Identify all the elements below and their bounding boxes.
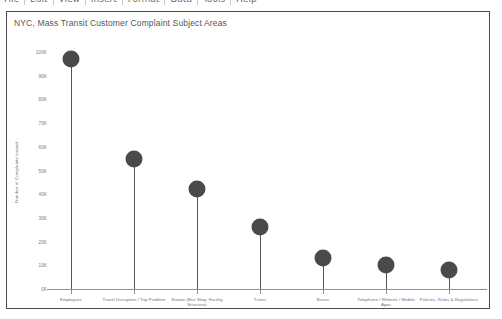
data-point-marker[interactable] [378,257,395,274]
chart-panel: NYC, Mass Transit Customer Complaint Sub… [6,11,490,309]
y-axis-tick-label: 90K [39,73,47,78]
lollipop-stem [71,59,72,289]
y-axis-tick-label: 100K [36,50,47,55]
toolbar-divider [164,0,165,5]
y-axis-tick-label: 80K [39,97,47,102]
y-axis-tick-label: 10K [39,263,47,268]
x-axis-tick-mark [71,289,72,294]
x-axis-tick-mark [134,289,135,294]
toolbar-item-view[interactable]: View [59,0,80,8]
y-axis-tick-label: 40K [39,192,47,197]
data-point-marker[interactable] [441,262,458,279]
x-axis-tick-label: Policies, Rules & Regulations [417,297,481,302]
toolbar-divider [197,0,198,5]
plot-area: Number of Complaints Issued 100K90K80K70… [7,12,489,308]
data-point-marker[interactable] [126,150,143,167]
toolbar-item-data[interactable]: Data [170,0,192,8]
y-axis-tick-label: 30K [39,215,47,220]
x-axis-tick-mark [323,289,324,294]
y-axis-tick-label: 50K [39,168,47,173]
y-axis-tick-labels: 100K90K80K70K60K50K40K30K20K10K0K [7,12,47,308]
data-point-marker[interactable] [252,219,269,236]
x-axis-tick-label: Travel Disruption / Trip Problem [102,297,166,302]
toolbar-item-insert[interactable]: Insert [91,0,117,8]
toolbar-item-file[interactable]: File [4,0,19,8]
x-axis-tick-label: Telephone / Website / Mobile Apps [354,297,418,307]
toolbar-divider [53,0,54,5]
data-point-marker[interactable] [63,51,80,68]
lollipop-stem [260,227,261,289]
x-axis-tick-label: Buses [291,297,355,302]
toolbar-item-format[interactable]: Format [128,0,160,8]
toolbar-divider [85,0,86,5]
toolbar-strip: File Edit View Insert Format Data Tools … [0,0,502,8]
toolbar-item-edit[interactable]: Edit [30,0,47,8]
x-axis-line [47,289,487,290]
x-axis-tick-label: Trains [228,297,292,302]
toolbar-divider [24,0,25,5]
x-axis-tick-mark [449,289,450,294]
data-point-marker[interactable] [315,250,332,267]
x-axis-tick-label: Station (Bus Stop, Facility Structure) [165,297,229,307]
toolbar-divider [122,0,123,5]
x-axis-tick-mark [197,289,198,294]
toolbar-item-tools[interactable]: Tools [203,0,225,8]
lollipop-stem [134,159,135,289]
y-axis-tick-label: 70K [39,121,47,126]
x-axis-tick-mark [260,289,261,294]
lollipop-stem [197,189,198,289]
x-axis-tick-label: Employees [39,297,103,302]
data-point-marker[interactable] [189,181,206,198]
y-axis-tick-label: 60K [39,144,47,149]
toolbar-divider [230,0,231,5]
x-axis-tick-mark [386,289,387,294]
toolbar-item-help[interactable]: Help [236,0,257,8]
y-axis-tick-label: 20K [39,239,47,244]
